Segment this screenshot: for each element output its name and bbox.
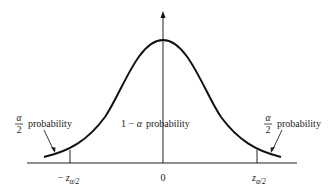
left-probability-text: probability (28, 118, 72, 129)
normal-distribution-diagram: α 2 probability 1 − αprobability α 2 pro… (0, 0, 336, 191)
x-label-zero: 0 (161, 172, 166, 183)
center-prefix: 1 − (121, 118, 137, 129)
center-label: 1 − αprobability (121, 118, 190, 129)
right-fraction-numerator: α (266, 113, 272, 123)
left-tail-label: α 2 probability (15, 113, 72, 135)
right-tail-label: α 2 probability (264, 113, 321, 135)
left-fraction-numerator: α (17, 113, 23, 123)
x-label-neg-critical: −zα/2 (58, 172, 80, 186)
y-axis-arrow-icon (161, 11, 166, 18)
right-probability-text: probability (277, 118, 321, 129)
svg-text:1 − αprobability: 1 − αprobability (121, 118, 190, 129)
right-fraction-denominator: 2 (266, 125, 271, 135)
center-alpha: α (137, 118, 143, 129)
center-probability-text: probability (146, 118, 190, 129)
left-fraction-denominator: 2 (17, 125, 22, 135)
left-tail-pointer-arrowhead-icon (51, 147, 56, 153)
right-tail-pointer-arrowhead-icon (271, 147, 276, 153)
x-label-pos-critical: zα/2 (251, 172, 266, 186)
